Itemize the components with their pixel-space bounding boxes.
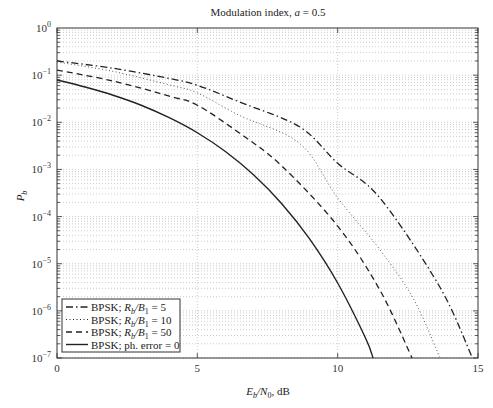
y-tick-label: 10−6: [31, 303, 51, 317]
y-tick-label: 100: [36, 20, 51, 34]
x-tick-label: 10: [332, 362, 344, 374]
y-tick-label: 10−1: [31, 67, 51, 81]
y-tick-label: 10−3: [31, 161, 51, 175]
chart: Modulation index, a = 0.5 10010−110−210−…: [0, 0, 493, 408]
y-tick-label: 10−2: [31, 114, 51, 128]
legend-entry: BPSK; ph. error = 0: [91, 339, 180, 351]
y-tick-labels: 10010−110−210−310−410−510−610−7: [31, 20, 51, 364]
y-tick-label: 10−4: [31, 209, 51, 223]
y-tick-label: 10−5: [31, 256, 51, 270]
y-axis-label: Pb: [14, 191, 29, 203]
legend: BPSK; Rb/B1 = 5BPSK; Rb/B1 = 10BPSK; Rb/…: [62, 299, 180, 352]
x-tick-labels: 051015: [54, 362, 484, 374]
x-tick-label: 5: [195, 362, 201, 374]
x-axis-label: Eb/N0, dB: [245, 385, 289, 400]
chart-title: Modulation index, a = 0.5: [211, 6, 326, 18]
y-tick-label: 10−7: [31, 350, 51, 364]
x-tick-label: 0: [54, 362, 60, 374]
x-tick-label: 15: [473, 362, 485, 374]
